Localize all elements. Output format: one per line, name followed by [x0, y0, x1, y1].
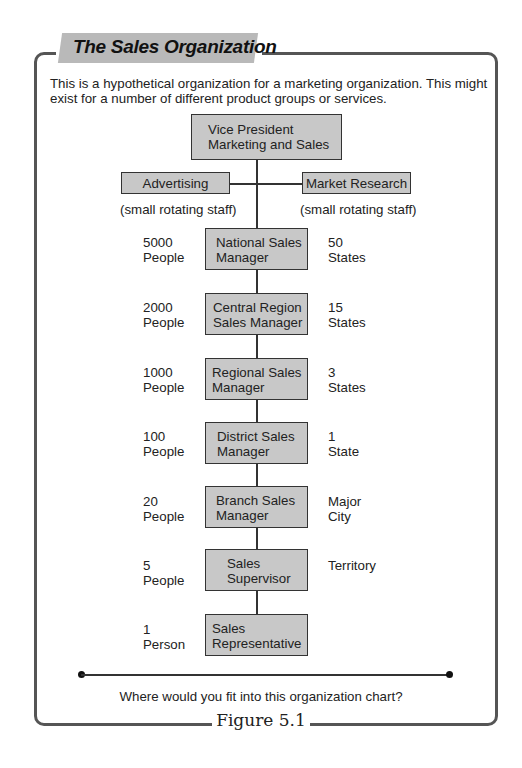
- count-value: 1: [143, 622, 185, 637]
- node-line: Regional Sales: [212, 365, 307, 380]
- node-line: Manager: [217, 444, 307, 459]
- node-label: Advertising: [143, 176, 209, 191]
- connector-staff: [229, 183, 302, 185]
- scope: Territory: [328, 558, 376, 573]
- node-line: Sales: [212, 621, 307, 636]
- scope-value: Major: [328, 494, 361, 509]
- node-label: Market Research: [306, 176, 407, 191]
- count-unit: People: [143, 509, 184, 524]
- node-advertising: Advertising: [121, 172, 230, 194]
- rule-endpoint-right: [446, 671, 453, 678]
- figure-label: Figure 5.1: [212, 710, 310, 734]
- people-count: 20 People: [143, 494, 184, 524]
- node-line: Branch Sales: [216, 493, 307, 508]
- count-value: 2000: [143, 300, 184, 315]
- closing-question: Where would you fit into this organizati…: [0, 689, 522, 704]
- node-vice-president: Vice President Marketing and Sales: [191, 114, 342, 160]
- node-central-region-sales-manager: Central Region Sales Manager: [205, 293, 308, 335]
- people-count: 1000 People: [143, 365, 184, 395]
- people-count: 100 People: [143, 429, 184, 459]
- scope: 3 States: [328, 365, 366, 395]
- market-research-note: (small rotating staff): [300, 202, 417, 217]
- node-line: Marketing and Sales: [208, 137, 341, 152]
- node-line: District Sales: [217, 429, 307, 444]
- scope: Major City: [328, 494, 361, 524]
- scope: 15 States: [328, 300, 366, 330]
- advertising-note: (small rotating staff): [120, 202, 237, 217]
- count-unit: Person: [143, 637, 185, 652]
- scope: 1 State: [328, 429, 359, 459]
- scope-unit: States: [328, 380, 366, 395]
- people-count: 2000 People: [143, 300, 184, 330]
- node-sales-supervisor: Sales Supervisor: [205, 549, 308, 591]
- scope-unit: State: [328, 444, 359, 459]
- node-line: Vice President: [208, 122, 341, 137]
- divider-rule: [81, 674, 449, 676]
- count-value: 1000: [143, 365, 184, 380]
- node-regional-sales-manager: Regional Sales Manager: [205, 358, 308, 400]
- node-national-sales-manager: National Sales Manager: [205, 228, 308, 270]
- node-sales-representative: Sales Representative: [205, 614, 308, 656]
- count-value: 5000: [143, 235, 184, 250]
- scope-unit: States: [328, 250, 366, 265]
- node-line: Manager: [216, 250, 307, 265]
- count-value: 20: [143, 494, 184, 509]
- count-value: 100: [143, 429, 184, 444]
- scope-value: 50: [328, 235, 366, 250]
- count-unit: People: [143, 573, 184, 588]
- node-line: Central Region: [213, 300, 307, 315]
- count-unit: People: [143, 380, 184, 395]
- scope-unit: City: [328, 509, 361, 524]
- node-line: Manager: [216, 508, 307, 523]
- node-line: National Sales: [216, 235, 307, 250]
- count-value: 5: [143, 558, 184, 573]
- node-district-sales-manager: District Sales Manager: [205, 422, 308, 464]
- node-market-research: Market Research: [302, 172, 411, 194]
- scope-value: Territory: [328, 558, 376, 573]
- scope-value: 15: [328, 300, 366, 315]
- node-line: Manager: [212, 380, 307, 395]
- people-count: 5 People: [143, 558, 184, 588]
- count-unit: People: [143, 444, 184, 459]
- scope-value: 1: [328, 429, 359, 444]
- figure-title: The Sales Organization: [73, 36, 277, 58]
- scope: 50 States: [328, 235, 366, 265]
- people-count: 5000 People: [143, 235, 184, 265]
- node-line: Supervisor: [227, 571, 307, 586]
- node-line: Representative: [212, 636, 307, 651]
- count-unit: People: [143, 250, 184, 265]
- scope-value: 3: [328, 365, 366, 380]
- intro-text: This is a hypothetical organization for …: [50, 76, 490, 106]
- node-branch-sales-manager: Branch Sales Manager: [205, 486, 308, 528]
- scope-unit: States: [328, 315, 366, 330]
- node-line: Sales Manager: [213, 315, 307, 330]
- node-line: Sales: [227, 556, 307, 571]
- count-unit: People: [143, 315, 184, 330]
- people-count: 1 Person: [143, 622, 185, 652]
